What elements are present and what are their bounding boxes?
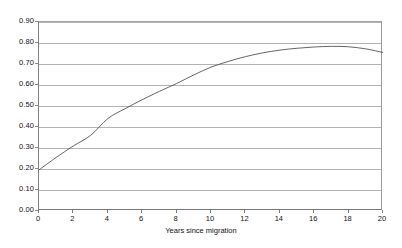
x-axis-tick-mark [279,210,280,213]
x-axis-tick-mark [313,210,314,213]
x-axis-tick-mark [107,210,108,213]
x-axis-tick-label: 8 [166,214,186,223]
x-axis-tick-label: 0 [28,214,48,223]
chart-container: 0.000.100.200.300.400.500.600.700.800.90… [0,0,402,248]
x-axis-tick-label: 4 [97,214,117,223]
x-axis-tick-label: 18 [338,214,358,223]
x-axis-tick-mark [141,210,142,213]
x-axis-tick-mark [210,210,211,213]
x-axis-tick-mark [176,210,177,213]
x-axis-tick-label: 16 [303,214,323,223]
x-axis-tick-labels: 02468101214161820 [0,0,402,248]
x-axis-tick-label: 2 [62,214,82,223]
x-axis-tick-mark [38,210,39,213]
x-axis-tick-mark [382,210,383,213]
x-axis-tick-label: 6 [131,214,151,223]
x-axis-tick-mark [72,210,73,213]
x-axis-tick-mark [244,210,245,213]
x-axis-tick-label: 12 [234,214,254,223]
x-axis-tick-label: 20 [372,214,392,223]
x-axis-tick-mark [348,210,349,213]
x-axis-tick-label: 10 [200,214,220,223]
x-axis-tick-label: 14 [269,214,289,223]
x-axis-title: Years since migration [0,226,402,235]
